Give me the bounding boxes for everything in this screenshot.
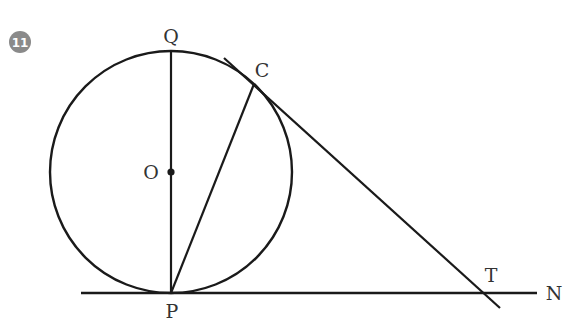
chord-PC (171, 84, 254, 293)
label-O: O (143, 161, 159, 183)
label-P: P (166, 300, 179, 322)
problem-number-badge: 11 (9, 31, 31, 53)
label-T: T (485, 264, 498, 286)
center-point-O (167, 168, 174, 175)
problem-number: 11 (12, 36, 29, 50)
label-Q: Q (163, 25, 179, 47)
label-N: N (546, 282, 563, 304)
geometry-figure: 11 Q O P C T N (0, 0, 585, 331)
label-C: C (255, 59, 270, 81)
tangent-line-CT (224, 58, 500, 308)
